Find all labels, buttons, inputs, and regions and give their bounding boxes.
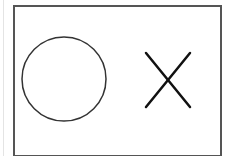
canvas	[0, 0, 226, 156]
circle-icon	[22, 37, 106, 121]
board-symbols	[0, 0, 226, 156]
cross-icon	[146, 53, 190, 107]
